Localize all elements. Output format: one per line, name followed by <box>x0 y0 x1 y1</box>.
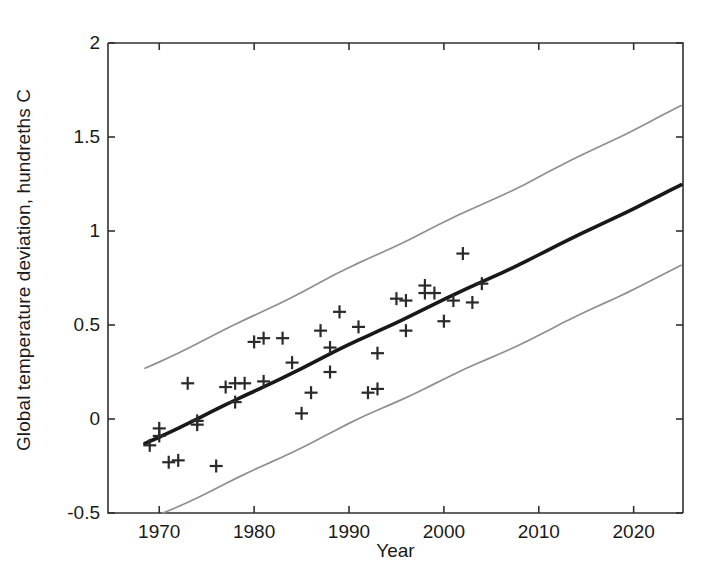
plot-canvas <box>0 0 722 584</box>
y-tick-label: 2 <box>89 32 100 54</box>
data-point-marker <box>371 347 384 360</box>
data-point-marker <box>324 366 337 379</box>
data-point-marker <box>466 296 479 309</box>
x-tick-label: 2020 <box>613 521 655 543</box>
y-tick-label: 0 <box>89 408 100 430</box>
y-tick-label: -0.5 <box>67 502 100 524</box>
x-tick-label: 1990 <box>328 521 370 543</box>
x-tick-label: 1970 <box>138 521 180 543</box>
data-point-marker <box>238 377 251 390</box>
data-point-marker <box>172 454 185 467</box>
data-point-marker <box>437 315 450 328</box>
data-point-marker <box>295 407 308 420</box>
upper-prediction-band <box>145 106 681 369</box>
data-point-marker <box>305 386 318 399</box>
y-tick-label: 1 <box>89 220 100 242</box>
y-tick-label: 0.5 <box>74 314 100 336</box>
fitted-regression-line <box>145 185 681 444</box>
chart-figure: Global temperature deviation, hundreths … <box>0 0 722 584</box>
regression-line <box>145 185 681 444</box>
x-tick-label: 2010 <box>518 521 560 543</box>
data-point-marker <box>181 377 194 390</box>
axes <box>108 43 683 513</box>
data-point-marker <box>286 356 299 369</box>
data-point-marker <box>399 294 412 307</box>
y-tick-label: 1.5 <box>74 126 100 148</box>
lower-prediction-band <box>163 265 681 513</box>
data-point-marker <box>210 460 223 473</box>
data-point-marker <box>428 287 441 300</box>
prediction-bands <box>145 106 681 513</box>
data-point-marker <box>352 320 365 333</box>
data-point-marker <box>399 324 412 337</box>
data-point-marker <box>276 332 289 345</box>
x-tick-label: 2000 <box>423 521 465 543</box>
x-tick-label: 1980 <box>233 521 275 543</box>
data-point-marker <box>333 305 346 318</box>
data-point-marker <box>314 324 327 337</box>
data-point-marker <box>390 292 403 305</box>
data-point-marker <box>162 456 175 469</box>
data-point-marker <box>456 247 469 260</box>
